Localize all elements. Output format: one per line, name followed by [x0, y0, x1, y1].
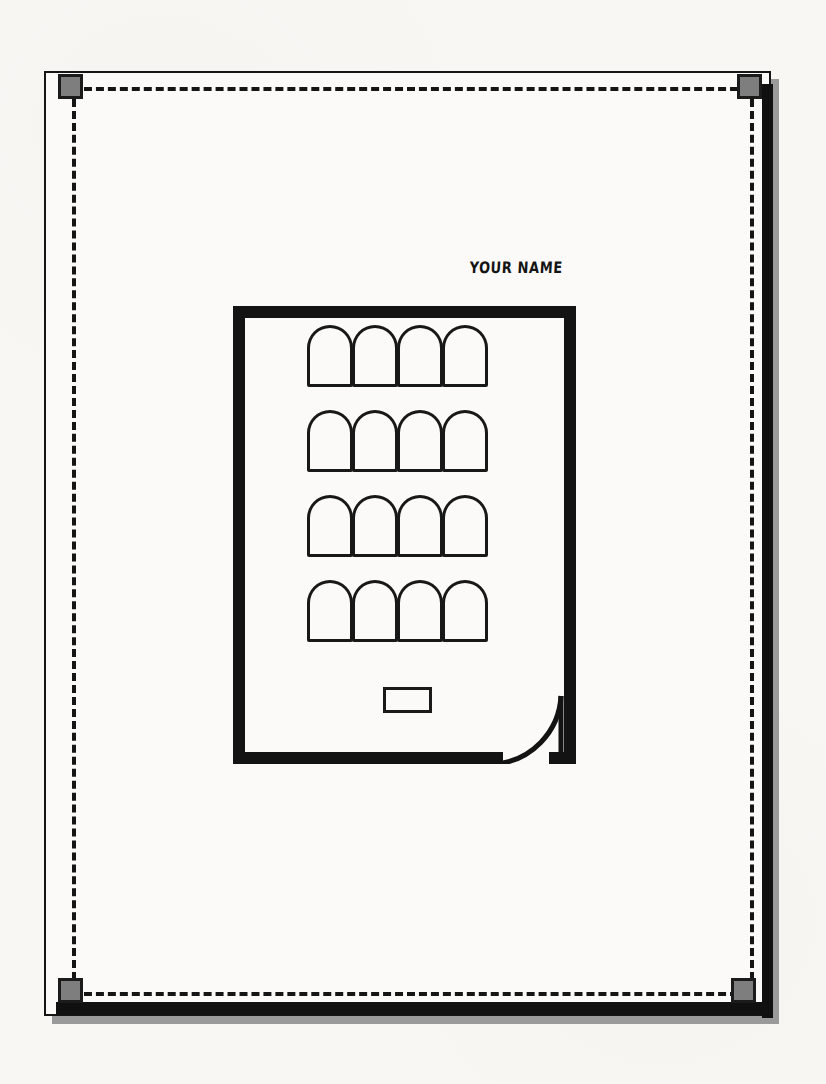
seat-arch[interactable] — [442, 495, 488, 557]
seat-arch[interactable] — [307, 495, 353, 557]
seat-arch[interactable] — [352, 495, 398, 557]
margin-guide-bottom — [72, 992, 750, 996]
page-edge-right-band — [762, 84, 773, 1018]
margin-guide-top — [72, 87, 750, 91]
seat-row — [307, 325, 488, 387]
door-swing-icon — [491, 688, 567, 764]
wall-bottom — [233, 752, 503, 764]
wall-top — [233, 306, 576, 318]
seat-arch[interactable] — [352, 580, 398, 642]
seat-row — [307, 410, 488, 472]
classroom-room-outline — [233, 306, 576, 764]
corner-marker-top-right[interactable] — [737, 74, 762, 99]
seat-arch[interactable] — [442, 325, 488, 387]
seat-arch[interactable] — [397, 410, 443, 472]
seat-arch[interactable] — [397, 325, 443, 387]
seat-row — [307, 495, 488, 557]
page-edge-bottom-band — [56, 1002, 773, 1015]
seat-arch[interactable] — [307, 410, 353, 472]
seat-arch[interactable] — [442, 580, 488, 642]
seat-arch[interactable] — [352, 325, 398, 387]
seat-arch[interactable] — [352, 410, 398, 472]
corner-marker-bottom-right[interactable] — [731, 978, 756, 1003]
podium-rectangle[interactable] — [383, 687, 432, 713]
floor-plan-canvas: YOUR NAME — [0, 0, 826, 1084]
your-name-label[interactable]: YOUR NAME — [469, 258, 563, 276]
seat-arch[interactable] — [442, 410, 488, 472]
seat-arch[interactable] — [397, 580, 443, 642]
corner-marker-top-left[interactable] — [58, 74, 83, 99]
margin-guide-left — [72, 87, 76, 992]
seat-arch[interactable] — [397, 495, 443, 557]
seat-row — [307, 580, 488, 642]
seat-arch[interactable] — [307, 580, 353, 642]
margin-guide-right — [750, 87, 754, 992]
wall-left — [233, 306, 245, 764]
corner-marker-bottom-left[interactable] — [58, 978, 83, 1003]
seat-arch[interactable] — [307, 325, 353, 387]
